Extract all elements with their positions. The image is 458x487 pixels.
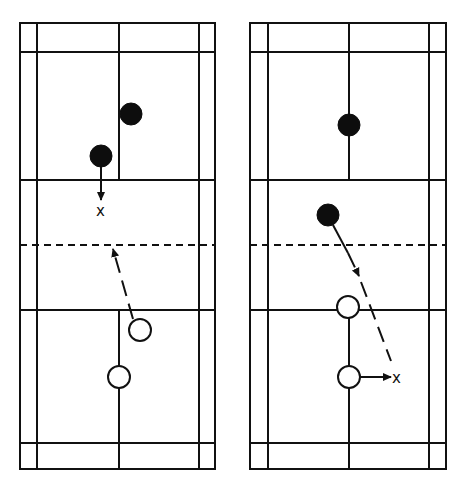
player-filled [90, 145, 112, 167]
player-open [337, 296, 359, 318]
badminton-diagram: x x [0, 0, 458, 487]
target-mark: x [96, 202, 105, 220]
player-open [338, 366, 360, 388]
player-open [129, 319, 151, 341]
shuttle-path-arrow [113, 249, 133, 319]
shot-line [333, 225, 348, 253]
player-open [108, 366, 130, 388]
left-court: x [20, 23, 215, 469]
shuttle-path-arrow [348, 253, 359, 276]
player-filled [120, 103, 142, 125]
right-court: x [250, 23, 446, 469]
target-mark: x [392, 369, 401, 387]
player-filled [338, 114, 360, 136]
shuttle-path [361, 282, 391, 361]
player-filled [317, 204, 339, 226]
